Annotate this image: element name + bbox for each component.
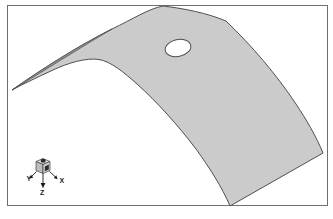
model-viewport[interactable]: Y X Z bbox=[0, 0, 333, 219]
z-axis-label: Z bbox=[40, 189, 45, 196]
x-axis-label: X bbox=[60, 177, 65, 184]
cad-figure: Y X Z bbox=[0, 0, 333, 219]
cube-top-dot bbox=[41, 159, 46, 163]
triad-cube-icon bbox=[36, 159, 50, 174]
y-axis-label: Y bbox=[27, 175, 32, 182]
